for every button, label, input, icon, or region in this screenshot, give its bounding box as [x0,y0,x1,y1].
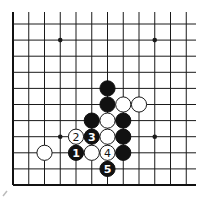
star-point [152,134,157,139]
scan-mark [3,191,7,196]
stone-black [84,113,99,128]
move-number-label: 3 [88,131,96,144]
go-board: 23145 [0,0,201,198]
stone-move-3: 3 [84,129,99,144]
stone-white [84,145,99,160]
star-point [58,134,63,139]
stone-white [100,113,115,128]
white-stone [37,145,52,160]
black-stone [100,81,115,96]
stone-move-1: 1 [68,145,83,160]
stone-move-4: 4 [100,145,115,160]
black-stone [116,145,131,160]
star-point [58,38,63,43]
stone-white [116,97,131,112]
white-stone [116,97,131,112]
white-stone [100,113,115,128]
move-number-label: 5 [104,163,112,176]
stone-black [100,81,115,96]
stone-move-5: 5 [100,161,115,176]
black-stone [116,129,131,144]
black-stone [116,113,131,128]
star-point [152,38,157,43]
move-number-label: 2 [73,131,80,144]
stone-white [37,145,52,160]
stone-black [116,129,131,144]
white-stone [84,145,99,160]
white-stone [100,129,115,144]
stone-move-2: 2 [68,129,83,144]
stone-white [131,97,146,112]
stone-black [116,113,131,128]
move-number-label: 4 [104,147,111,160]
stone-white [100,129,115,144]
stone-black [116,145,131,160]
black-stone [100,97,115,112]
stone-black [100,97,115,112]
move-number-label: 1 [72,147,80,160]
white-stone [131,97,146,112]
black-stone [84,113,99,128]
